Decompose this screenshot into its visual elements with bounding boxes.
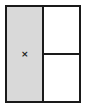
layout-frame: × <box>5 5 81 103</box>
right-top-pane[interactable] <box>44 7 79 55</box>
x-marker-icon: × <box>21 50 29 59</box>
right-bottom-pane[interactable] <box>44 55 79 101</box>
left-pane[interactable]: × <box>7 7 44 101</box>
